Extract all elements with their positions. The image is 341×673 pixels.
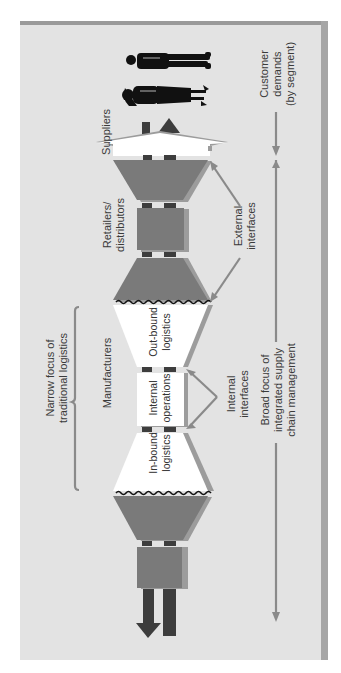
connector (142, 252, 152, 257)
connector (142, 203, 152, 208)
retailers-box (137, 208, 184, 250)
connector (164, 252, 176, 257)
internal-interfaces-arrows (189, 371, 217, 427)
customer-man-icon (126, 52, 211, 69)
inbound-logistics-label: In-bound logistics (147, 428, 172, 478)
outbound-logistics-label: Out-bound logistics (147, 304, 172, 360)
narrow-focus-brace (72, 307, 79, 490)
outflow-arrow-icon (136, 589, 176, 638)
connector (143, 155, 152, 160)
retailers-label: Retailers/ distributors (101, 195, 127, 255)
arrowhead (272, 612, 280, 622)
connector (164, 203, 176, 208)
narrow-focus-label: Narrow focus of traditional logistics (44, 318, 70, 438)
arrowhead (210, 161, 218, 171)
internal-interfaces-label: Internal interfaces (225, 364, 251, 424)
supplier-interface-wave (116, 492, 211, 495)
arrowhead (272, 146, 280, 156)
broad-focus-label: Broad focus of integrated supply chain m… (259, 340, 298, 440)
suppliers-box (137, 547, 182, 588)
supplier-outbound-funnel (113, 496, 212, 541)
connector (142, 541, 152, 546)
customer-demands-label: Customer demands (by segment) (258, 38, 297, 110)
arrowhead (272, 160, 280, 168)
retailer-inbound-funnel (113, 258, 212, 302)
customer-woman-icon (122, 85, 209, 106)
customer-interface-cap (96, 131, 228, 156)
external-interfaces-label: External interfaces (232, 196, 258, 256)
connector (164, 155, 176, 160)
manufacturers-label: Manufacturers (101, 323, 114, 423)
retailer-outbound-funnel (113, 160, 212, 202)
suppliers-label: Suppliers (100, 102, 113, 162)
connector (164, 541, 176, 546)
internal-operations-label: Internal operations (147, 371, 172, 425)
